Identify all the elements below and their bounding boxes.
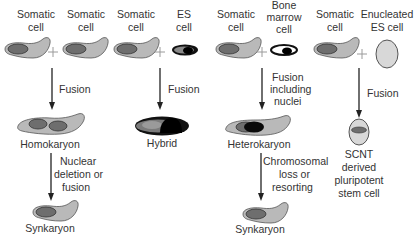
step-label: Chromosomal: [263, 155, 328, 167]
input-label: ES: [177, 8, 191, 20]
input-label: cell: [28, 21, 44, 33]
plus-icon: [357, 49, 367, 59]
heterokaryon-cell-icon: [226, 116, 291, 136]
heterokaryon-pathway: Somatic cell Bone marrow cell Fusion inc…: [216, 0, 328, 235]
input-label: ES cell: [371, 21, 404, 33]
step-label: Nuclear: [60, 155, 97, 167]
input-label: marrow: [266, 11, 301, 23]
fusion-arrow: [157, 68, 163, 110]
product-label: stem cell: [338, 187, 379, 199]
input-label: Somatic: [117, 8, 155, 20]
product-label: Hybrid: [147, 137, 178, 149]
synkaryon-cell-icon: [243, 203, 288, 223]
bone-marrow-cell-icon: [271, 45, 297, 55]
input-label: Somatic: [67, 8, 105, 20]
fusion-arrow: [259, 68, 265, 110]
input-label: Bone: [272, 0, 297, 11]
step-label: resorting: [272, 181, 313, 193]
step-label: loss or: [279, 168, 310, 180]
cell-fusion-diagram: Somatic cell Somatic cell Fusion Homokar…: [0, 0, 416, 242]
somatic-cell-icon: [216, 38, 261, 58]
input-label: cell: [128, 21, 144, 33]
product-label: derived: [342, 161, 377, 173]
somatic-cell-icon: [5, 38, 50, 58]
product-label: Heterokaryon: [227, 138, 290, 150]
synkaryon-cell-icon: [33, 201, 78, 221]
step-label: Fusion: [272, 71, 304, 83]
input-label: cell: [78, 21, 94, 33]
scnt-cell-icon: [349, 119, 369, 145]
input-label: cell: [327, 21, 343, 33]
input-label: Somatic: [17, 8, 55, 20]
input-label: cell: [228, 21, 244, 33]
somatic-cell-icon: [114, 38, 159, 58]
input-label: Somatic: [217, 8, 255, 20]
step-label: Fusion: [168, 83, 200, 95]
product-label: Homokaryon: [20, 138, 80, 150]
step-label: including: [270, 83, 312, 95]
step-label: fusion: [62, 181, 90, 193]
input-label: cell: [176, 21, 192, 33]
input-label: cell: [276, 23, 292, 35]
step-label: nuclei: [274, 95, 301, 107]
input-label: Enucleated: [361, 8, 414, 20]
product-label: Synkaryon: [235, 223, 285, 235]
fusion-arrow: [356, 68, 362, 118]
somatic-cell-icon: [63, 38, 108, 58]
homokaryon-pathway: Somatic cell Somatic cell Fusion Homokar…: [5, 8, 108, 234]
step-label: deletion or: [54, 168, 104, 180]
scnt-pathway: Somatic cell Enucleated ES cell Fusion S…: [314, 8, 413, 199]
hybrid-cell-icon: [135, 117, 189, 136]
es-cell-icon: [172, 45, 198, 56]
input-label: Somatic: [316, 8, 354, 20]
somatic-cell-icon: [314, 38, 359, 58]
product-label: pluripotent: [334, 174, 383, 186]
plus-icon: [48, 47, 58, 57]
homokaryon-cell-icon: [18, 114, 85, 135]
hybrid-pathway: Somatic cell ES cell Fusion Hybrid: [114, 8, 200, 149]
product-label: SCNT: [345, 148, 374, 160]
step-label: Fusion: [59, 83, 91, 95]
fusion-arrow: [49, 68, 55, 110]
product-label: Synkaryon: [25, 222, 75, 234]
step-label: Fusion: [367, 87, 399, 99]
enucleated-es-cell-icon: [376, 40, 398, 68]
